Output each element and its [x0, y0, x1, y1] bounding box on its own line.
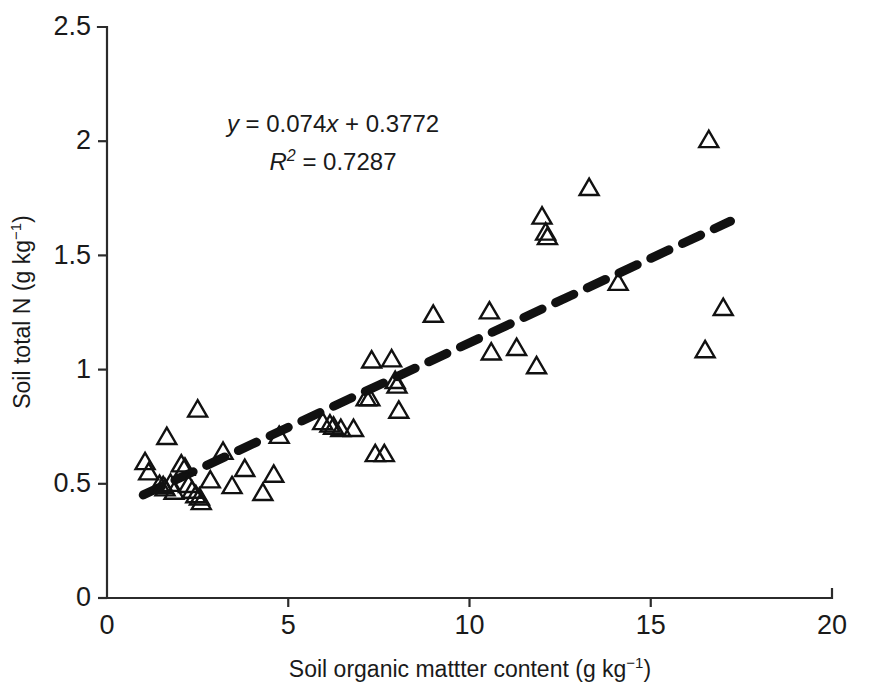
x-axis-tick-label: 10	[454, 610, 484, 640]
x-axis-tick-label: 0	[99, 610, 114, 640]
x-axis-tick-label: 15	[636, 610, 666, 640]
y-axis-tick-label: 2	[76, 125, 91, 155]
y-axis-tick-label: 0.5	[53, 468, 91, 498]
y-axis-title-tail: )	[9, 215, 35, 223]
scatter-plot-figure: 00.511.522.5 05101520 y = 0.074x + 0.377…	[0, 0, 869, 694]
equation-body: = 0.074	[239, 110, 326, 137]
figure-root: 00.511.522.5 05101520 y = 0.074x + 0.377…	[0, 0, 869, 694]
x-axis-title-main: Soil organic mattter content (g kg	[289, 656, 627, 682]
y-axis-tick-label: 1.5	[53, 240, 91, 270]
y-axis-title-main: Soil total N (g kg	[9, 240, 35, 409]
y-axis-title: Soil total N (g kg−1)	[7, 215, 35, 409]
r-squared-symbol: R	[269, 148, 286, 175]
x-axis-title-exponent: −1	[626, 654, 643, 671]
equation-tail: + 0.3772	[338, 110, 439, 137]
x-axis-title-tail: )	[643, 656, 651, 682]
r-squared-value: = 0.7287	[296, 148, 397, 175]
y-axis-title-exponent: −1	[7, 223, 24, 240]
r-squared-exponent: 2	[286, 147, 296, 164]
figure-background	[0, 0, 869, 694]
y-axis-tick-label: 0	[76, 582, 91, 612]
y-axis-tick-label: 1	[76, 354, 91, 384]
x-axis-tick-label: 20	[817, 610, 847, 640]
x-axis-title: Soil organic mattter content (g kg−1)	[289, 654, 651, 682]
x-axis-tick-label: 5	[281, 610, 296, 640]
equation-x-symbol: x	[325, 110, 339, 137]
regression-equation-annotation: y = 0.074x + 0.3772	[225, 110, 439, 137]
y-axis-tick-label: 2.5	[53, 11, 91, 41]
